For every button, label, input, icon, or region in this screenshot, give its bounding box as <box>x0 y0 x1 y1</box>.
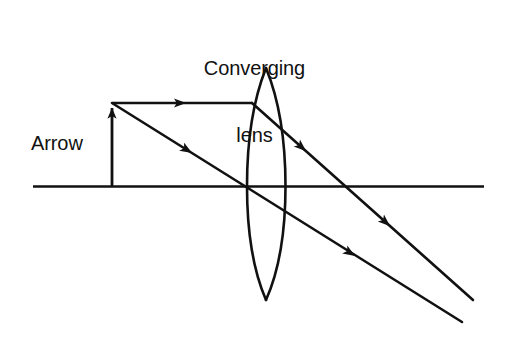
lens-title-line-1: Converging <box>0 57 509 79</box>
object-arrow-label: Arrow <box>31 132 83 154</box>
optics-ray-diagram: Converging lens Arrow <box>0 0 509 341</box>
lens-title-label: Converging lens <box>0 12 509 191</box>
